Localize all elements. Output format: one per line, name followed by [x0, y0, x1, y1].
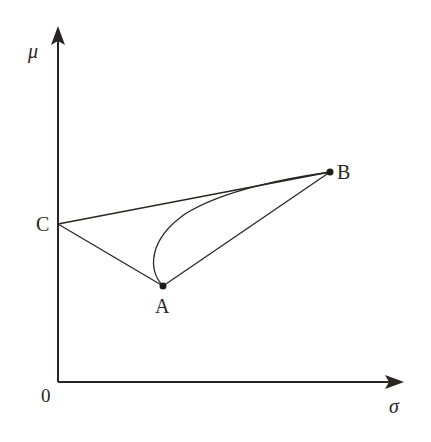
segment-c-b: [58, 172, 330, 224]
point-a: [160, 283, 167, 290]
diagram-canvas: μ σ 0 A B C: [0, 0, 431, 442]
label-a: A: [155, 295, 170, 317]
origin-label: 0: [41, 385, 51, 406]
label-b: B: [337, 161, 350, 183]
y-axis-label: μ: [27, 40, 38, 63]
label-c: C: [36, 213, 49, 235]
point-b: [327, 169, 334, 176]
x-axis-label: σ: [389, 395, 400, 417]
segment-c-a: [58, 224, 163, 286]
